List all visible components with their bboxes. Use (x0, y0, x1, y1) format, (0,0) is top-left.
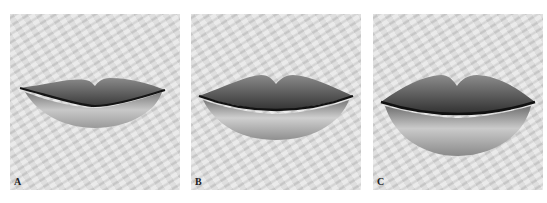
panel-c: C (373, 14, 543, 190)
lips-medium-illustration (191, 14, 361, 190)
panel-label: C (377, 176, 384, 187)
panel-label: A (14, 176, 21, 187)
panel-a: A (10, 14, 180, 190)
panel-label: B (195, 176, 202, 187)
lips-thin-illustration (10, 14, 180, 190)
lips-full-illustration (373, 14, 543, 190)
panel-b: B (191, 14, 361, 190)
